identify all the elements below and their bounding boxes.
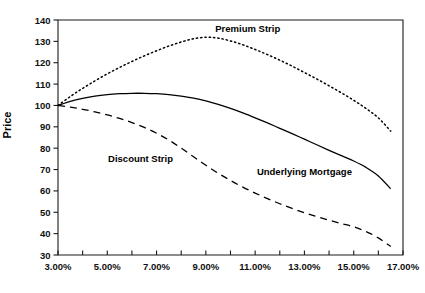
x-tick-label: 9.00% xyxy=(192,261,219,272)
y-tick-label: 90 xyxy=(40,121,51,132)
y-tick-label: 70 xyxy=(40,164,51,175)
y-axis-title: Price xyxy=(1,112,13,139)
series-curve-premium-strip xyxy=(58,37,391,131)
y-tick-label: 40 xyxy=(40,228,51,239)
y-tick-label: 140 xyxy=(35,15,51,26)
x-tick-label: 5.00% xyxy=(94,261,121,272)
y-tick-label: 130 xyxy=(35,36,51,47)
y-tick-label: 50 xyxy=(40,207,51,218)
plot-frame xyxy=(58,20,403,255)
x-tick-label: 15.00% xyxy=(338,261,371,272)
series-label-underlying-mortgage: Underlying Mortgage xyxy=(257,166,352,177)
chart-container: 30405060708090100110120130140 3.00%5.00%… xyxy=(0,0,425,293)
series-label-premium-strip: Premium Strip xyxy=(215,23,280,34)
series-label-discount-strip: Discount Strip xyxy=(108,153,173,164)
x-axis-tick-labels: 3.00%5.00%7.00%9.00%11.00%13.00%15.00%17… xyxy=(45,261,420,272)
y-tick-label: 60 xyxy=(40,185,51,196)
price-vs-rate-line-chart: 30405060708090100110120130140 3.00%5.00%… xyxy=(0,0,425,293)
x-tick-label: 13.00% xyxy=(288,261,321,272)
plot-border xyxy=(58,20,403,255)
y-axis-ticks xyxy=(54,20,59,255)
data-series-curves xyxy=(58,37,391,246)
x-tick-label: 17.00% xyxy=(387,261,420,272)
x-tick-label: 7.00% xyxy=(143,261,170,272)
series-inline-labels: Premium StripUnderlying MortgageDiscount… xyxy=(108,23,352,177)
y-axis-tick-labels: 30405060708090100110120130140 xyxy=(35,15,51,261)
x-tick-label: 3.00% xyxy=(45,261,72,272)
y-tick-label: 80 xyxy=(40,143,51,154)
x-axis-ticks xyxy=(58,251,403,256)
y-tick-label: 30 xyxy=(40,250,51,261)
y-tick-label: 110 xyxy=(35,79,50,90)
y-tick-label: 100 xyxy=(35,100,51,111)
x-tick-label: 11.00% xyxy=(239,261,271,272)
y-tick-label: 120 xyxy=(35,57,51,68)
